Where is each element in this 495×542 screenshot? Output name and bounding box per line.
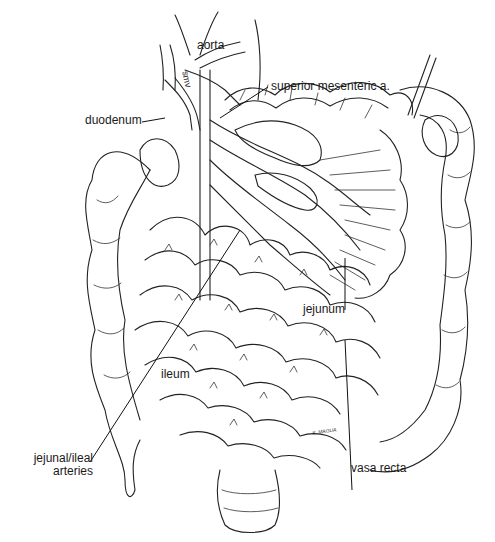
label-jejunal-ileal-arteries: jejunal/ileal arteries (17, 452, 93, 478)
great-vessels (160, 12, 260, 300)
label-jejunum: jejunum (303, 303, 345, 316)
label-aorta: aorta (197, 39, 224, 52)
rectum (218, 470, 280, 533)
label-jejunal-ileal-line2: arteries (17, 465, 93, 478)
mesenteric-arcades (210, 85, 395, 295)
label-vasa-recta: vasa recta (351, 462, 406, 475)
label-superior-mesenteric: superior mesenteric a. (271, 80, 390, 93)
label-ileum: ileum (161, 368, 190, 381)
label-duodenum: duodenum (85, 114, 142, 127)
small-intestine-loops (135, 217, 380, 468)
